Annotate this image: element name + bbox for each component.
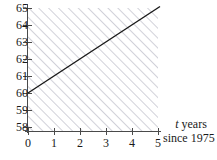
hatch-pattern-icon — [28, 8, 158, 131]
x-axis-tick-label: 3 — [98, 137, 114, 149]
y-axis-tick-label: 59 — [4, 104, 28, 116]
x-axis-tick — [54, 128, 55, 135]
x-axis-tick — [158, 128, 159, 135]
y-axis-tick-label: 63 — [4, 36, 28, 48]
x-axis-tick — [28, 128, 29, 135]
y-axis-tick-label: 61 — [4, 70, 28, 82]
x-axis-tick-label: 0 — [20, 137, 36, 149]
y-axis-tick-label: 60 — [4, 87, 28, 99]
y-axis-tick-label: 62 — [4, 53, 28, 65]
y-axis-tick-label: 64 — [4, 19, 28, 31]
y-axis-tick-label: 65 — [4, 2, 28, 14]
x-axis-tick — [132, 128, 133, 135]
axis-caption-line2: since 1975 — [163, 131, 217, 145]
x-axis-tick-label: 2 — [72, 137, 88, 149]
y-axis-tick-label: 58 — [4, 121, 28, 133]
x-axis-line — [25, 131, 161, 132]
line-graph-figure: 65 64 63 62 61 60 59 58 0 1 2 3 4 5 t ye… — [0, 0, 217, 160]
x-axis-tick — [106, 128, 107, 135]
x-axis-caption: t years since 1975 — [163, 117, 217, 145]
x-axis-tick — [80, 128, 81, 135]
axis-caption-line1-rest: years — [179, 117, 207, 131]
x-axis-tick-label: 1 — [46, 137, 62, 149]
plot-area — [28, 8, 158, 131]
x-axis-tick-label: 4 — [124, 137, 140, 149]
